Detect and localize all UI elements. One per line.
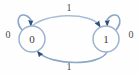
node-state-0-label: 0 bbox=[29, 33, 35, 45]
arc-top-path bbox=[30, 16, 100, 28]
edge-label-self-loop-left: 0 bbox=[6, 29, 11, 40]
node-state-1[interactable]: 1 bbox=[93, 26, 119, 52]
edge-label-self-loop-right: 0 bbox=[129, 29, 134, 40]
edge-label-arc-bottom: 1 bbox=[67, 61, 72, 72]
state-diagram-canvas: 0 1 0 1 1 0 bbox=[0, 0, 138, 74]
node-state-0[interactable]: 0 bbox=[19, 26, 45, 52]
nodes-layer: 0 1 bbox=[19, 26, 119, 52]
edge-arc-bottom bbox=[37, 51, 107, 63]
arc-bottom-path bbox=[38, 52, 107, 63]
edge-arc-top bbox=[30, 16, 101, 28]
edge-label-arc-top: 1 bbox=[67, 2, 72, 13]
node-state-1-label: 1 bbox=[103, 33, 109, 45]
state-diagram-figure: 0 1 0 1 1 0 bbox=[0, 0, 138, 74]
